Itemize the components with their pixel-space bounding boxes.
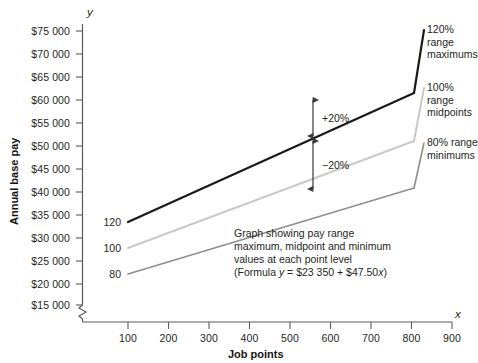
- series-start-label-120: 120: [93, 216, 121, 228]
- chart-note: Graph showing pay rangemaximum, midpoint…: [234, 227, 391, 279]
- x-tick-label-500: 500: [270, 332, 310, 344]
- x-tick-label-100: 100: [108, 332, 148, 344]
- x-tick-label-600: 600: [311, 332, 351, 344]
- x-tick-label-200: 200: [149, 332, 189, 344]
- series-callout-120-percent-maximums: 120% range maximums: [427, 23, 478, 61]
- chart-note-formula-prefix: (Formula: [234, 266, 279, 278]
- x-tick-label-800: 800: [392, 332, 432, 344]
- x-axis-title: Job points: [228, 348, 284, 360]
- x-tick-label-700: 700: [351, 332, 391, 344]
- chart-note-formula-mid: = $23 350 + $47.50: [284, 266, 378, 278]
- series-callout-100-text: 100% range midpoints: [427, 81, 472, 118]
- x-tick-label-400: 400: [230, 332, 270, 344]
- y-tick-label-15000: $15 000: [4, 299, 70, 311]
- plus-20-percent-label: +20%: [322, 112, 349, 124]
- y-tick-label-25000: $25 000: [4, 255, 70, 267]
- x-tick-label-900: 900: [432, 332, 472, 344]
- y-axis-title: Annual base pay: [8, 138, 20, 225]
- chart-note-formula-suffix: ): [383, 266, 387, 278]
- y-tick-label-30000: $30 000: [4, 232, 70, 244]
- series-leader-100-percent: [414, 88, 424, 141]
- series-callout-80-percent-minimums: 80% range minimums: [427, 136, 478, 161]
- series-callout-100-percent-midpoints: 100% range midpoints: [427, 81, 478, 119]
- series-leader-80-percent: [414, 143, 424, 188]
- chart-canvas: [0, 0, 478, 363]
- chart-note-formula: (Formula y = $23 350 + $47.50x): [234, 266, 387, 278]
- y-axis-ticks: [76, 31, 83, 305]
- series-leader-120-percent: [414, 30, 424, 93]
- y-axis-break-icon: [79, 305, 86, 319]
- minus-20-percent-label: −20%: [322, 159, 349, 171]
- y-tick-label-65000: $65 000: [4, 71, 70, 83]
- y-tick-label-60000: $60 000: [4, 94, 70, 106]
- series-callout-80-text: 80% range minimums: [427, 136, 478, 161]
- chart-note-line-3: values at each point level: [234, 253, 352, 265]
- x-axis-ticks: [128, 322, 452, 329]
- y-tick-label-20000: $20 000: [4, 278, 70, 290]
- x-axis-variable-label: x: [455, 308, 461, 320]
- y-axis-variable-label: y: [87, 6, 93, 18]
- pay-range-chart: $75 000 $70 000 $65 000 $60 000 $55 000 …: [0, 0, 478, 363]
- x-tick-label-300: 300: [189, 332, 229, 344]
- series-start-label-100: 100: [93, 242, 121, 254]
- chart-note-line-2: maximum, midpoint and minimum: [234, 240, 391, 252]
- y-tick-label-70000: $70 000: [4, 48, 70, 60]
- series-start-label-80: 80: [93, 268, 121, 280]
- y-tick-label-75000: $75 000: [4, 25, 70, 37]
- series-callout-120-text: 120% range maximums: [427, 23, 478, 60]
- chart-note-line-1: Graph showing pay range: [234, 227, 354, 239]
- y-tick-label-55000: $55 000: [4, 117, 70, 129]
